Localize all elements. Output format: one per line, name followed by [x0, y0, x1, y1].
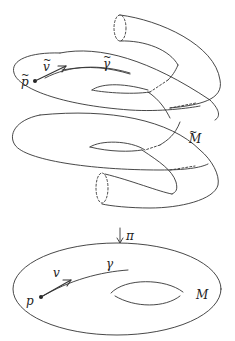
lower-space-label: M: [196, 289, 208, 301]
upper-curve-label: γ: [103, 58, 110, 70]
lower-curve-label: γ: [106, 258, 113, 270]
lower-point-label: p: [26, 295, 34, 307]
lower-torus: [13, 243, 221, 335]
upper-point-label: p: [21, 76, 29, 88]
lower-vector-label: v: [53, 267, 60, 279]
upper-tube-end: [114, 15, 220, 108]
upper-space-label: M: [189, 133, 201, 145]
covering-space-figure: ~ p ~ v ~ γ ~ M π p v γ M: [0, 0, 235, 341]
projection-label: π: [126, 230, 134, 242]
lower-tube-end: [96, 173, 172, 203]
upper-vector-label: v: [43, 61, 50, 73]
middle-sheet: [12, 113, 218, 208]
